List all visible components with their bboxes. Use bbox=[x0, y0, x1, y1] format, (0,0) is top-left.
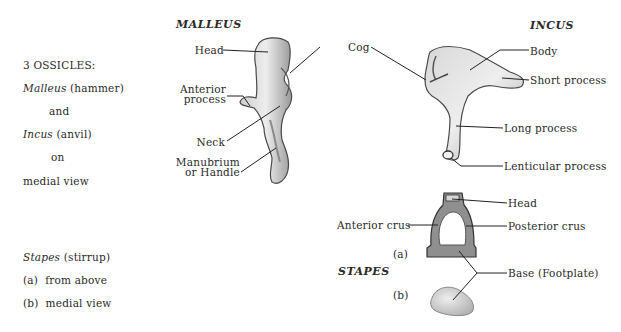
stapes-footplate-b bbox=[431, 287, 474, 315]
label-anterior-process-line2: process bbox=[170, 93, 226, 105]
label-posterior-crus: Posterior crus bbox=[508, 220, 586, 232]
incus-common-name: (anvil) bbox=[57, 128, 92, 140]
label-manubrium-line2: or Handle bbox=[170, 166, 240, 178]
and-text: and bbox=[49, 105, 69, 117]
stapes-view-a-marker: (a) bbox=[393, 248, 408, 260]
medial-view-text: medial view bbox=[23, 175, 89, 187]
leader-long-process bbox=[456, 126, 503, 128]
on-text: on bbox=[51, 151, 64, 163]
label-lenticular-process: Lenticular process bbox=[504, 160, 607, 172]
label-cog: Cog bbox=[348, 41, 370, 53]
stapes-view-a: (a) from above bbox=[23, 274, 107, 286]
stapes-view-b: (b) medial view bbox=[23, 297, 112, 309]
incus-title: INCUS bbox=[530, 20, 574, 32]
stapes-description: Stapes (stirrup) bbox=[23, 251, 110, 263]
label-neck: Neck bbox=[180, 136, 225, 148]
leader-cog-incus bbox=[371, 47, 426, 80]
stapes-common-name: (stirrup) bbox=[64, 251, 110, 263]
malleus-bone bbox=[240, 38, 292, 183]
label-stapes-base: Base (Footplate) bbox=[508, 267, 599, 279]
incus-name: Incus bbox=[23, 128, 53, 140]
label-malleus-head: Head bbox=[190, 44, 224, 56]
label-stapes-head: Head bbox=[508, 197, 537, 209]
label-incus-body: Body bbox=[530, 45, 558, 57]
ossicles-heading: 3 OSSICLES: bbox=[23, 59, 96, 71]
incus-bone bbox=[425, 47, 524, 161]
stapes-name: Stapes bbox=[23, 251, 60, 263]
label-short-process: Short process bbox=[530, 74, 606, 86]
stapes-view-b-marker: (b) bbox=[393, 289, 409, 301]
leader-cog-malleus bbox=[290, 47, 320, 73]
stapes-title: STAPES bbox=[338, 266, 390, 278]
malleus-description: Malleus (hammer) bbox=[23, 82, 124, 94]
malleus-name: Malleus bbox=[23, 82, 67, 94]
label-anterior-crus: Anterior crus bbox=[337, 219, 411, 231]
leader-lenticular-process bbox=[451, 158, 503, 166]
label-long-process: Long process bbox=[504, 122, 577, 134]
malleus-title: MALLEUS bbox=[176, 19, 242, 31]
incus-description: Incus (anvil) bbox=[23, 128, 92, 140]
malleus-common-name: (hammer) bbox=[70, 82, 124, 94]
